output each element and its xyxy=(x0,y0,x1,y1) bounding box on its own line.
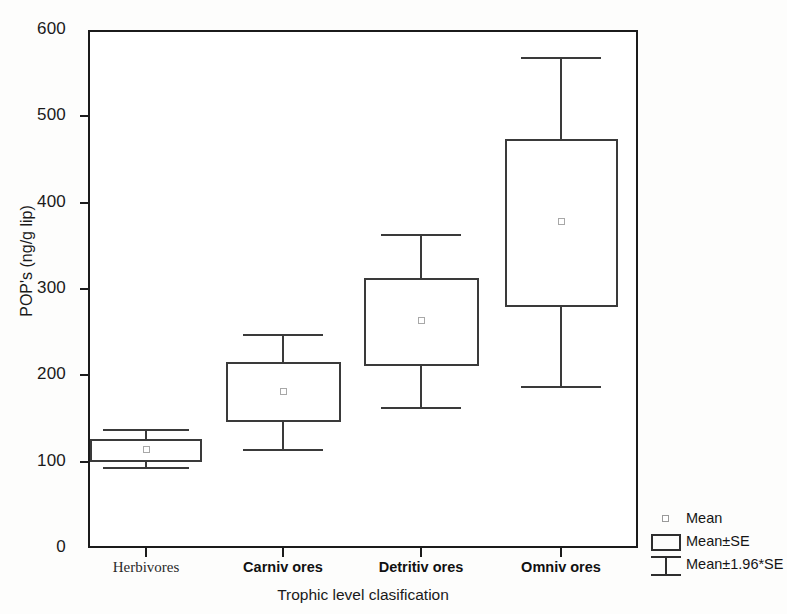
whisker-lower-cap xyxy=(521,386,601,388)
whisker-upper-stem xyxy=(420,235,422,277)
legend-whisker-cap-bottom-icon xyxy=(651,574,681,576)
legend-item: Mean xyxy=(648,508,783,531)
whisker-upper-cap xyxy=(521,57,601,59)
y-axis-tick-label: 100 xyxy=(22,451,66,471)
whisker-lower-cap xyxy=(243,449,323,451)
y-axis-tick-label: 600 xyxy=(22,19,66,39)
whisker-upper-stem xyxy=(145,430,147,439)
legend-box-icon xyxy=(651,534,681,551)
legend-label: Mean±SE xyxy=(686,533,750,549)
y-axis-tick-label: 400 xyxy=(22,192,66,212)
mean-marker xyxy=(558,218,565,225)
whisker-lower-cap xyxy=(103,467,189,469)
x-axis-title: Trophic level clasification xyxy=(88,586,638,604)
mean-marker xyxy=(143,446,150,453)
y-axis-tick-label: 500 xyxy=(22,105,66,125)
legend-label: Mean±1.96*SE xyxy=(686,556,783,572)
x-axis-tick xyxy=(145,548,147,557)
x-axis-tick-label: Omniv ores xyxy=(476,559,646,575)
whisker-lower-stem xyxy=(420,366,422,408)
y-axis-tick-label: 0 xyxy=(22,537,66,557)
legend-whisker-cap-top-icon xyxy=(651,556,681,558)
x-axis-tick xyxy=(560,548,562,557)
whisker-lower-cap xyxy=(381,407,461,409)
x-axis-tick xyxy=(420,548,422,557)
legend-mean-marker-icon xyxy=(662,515,669,522)
whisker-lower-stem xyxy=(560,307,562,387)
legend-item: Mean±SE xyxy=(648,531,783,554)
whisker-upper-cap xyxy=(103,429,189,431)
mean-marker xyxy=(280,388,287,395)
legend-whisker-stem-icon xyxy=(665,556,667,575)
whisker-upper-cap xyxy=(381,234,461,236)
legend: MeanMean±SEMean±1.96*SE xyxy=(648,508,783,577)
boxplot-figure: POP's (ng/g lip) 0100200300400500600 Her… xyxy=(0,0,787,614)
y-axis-tick-label: 300 xyxy=(22,278,66,298)
legend-item: Mean±1.96*SE xyxy=(648,554,783,577)
y-axis-tick-label: 200 xyxy=(22,364,66,384)
mean-marker xyxy=(418,317,425,324)
whisker-upper-stem xyxy=(282,335,284,363)
legend-label: Mean xyxy=(686,510,722,526)
whisker-lower-stem xyxy=(282,422,284,450)
whisker-upper-stem xyxy=(560,58,562,138)
x-axis-tick xyxy=(282,548,284,557)
whisker-upper-cap xyxy=(243,334,323,336)
